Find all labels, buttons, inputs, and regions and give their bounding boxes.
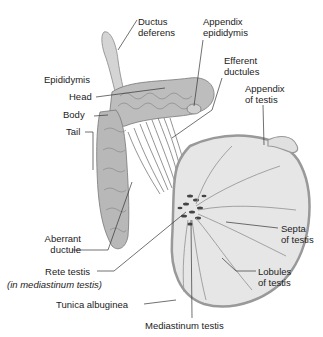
leader-ductus-deferens bbox=[118, 20, 137, 50]
epididymis-tail-shape bbox=[97, 110, 129, 249]
label-appendix-epididymis: Appendix epididymis bbox=[203, 16, 248, 38]
ductus-deferens-shape bbox=[102, 32, 124, 95]
label-epididymis: Epididymis bbox=[44, 74, 90, 85]
label-efferent-ductules: Efferent ductules bbox=[224, 55, 259, 77]
epididymis-head-shape bbox=[110, 78, 214, 127]
label-rete-testis: Rete testis bbox=[30, 266, 90, 277]
label-appendix-of-testis: Appendix of testis bbox=[245, 83, 285, 105]
label-lobules-of-testis: Lobules of testis bbox=[258, 266, 291, 288]
label-aberrant-ductule: Aberrant ductule bbox=[19, 233, 81, 255]
leader-tunica-albuginea bbox=[144, 300, 176, 304]
label-body: Body bbox=[63, 109, 85, 120]
leader-tail bbox=[85, 132, 93, 170]
label-tunica-albuginea: Tunica albuginea bbox=[56, 299, 128, 310]
label-mediastinum-testis: Mediastinum testis bbox=[145, 320, 224, 331]
label-tail: Tail bbox=[66, 126, 80, 137]
label-ductus-deferens: Ductus deferens bbox=[138, 16, 175, 38]
label-head: Head bbox=[69, 91, 92, 102]
testis-anatomy-diagram: Ductus deferens Appendix epididymis Effe… bbox=[0, 0, 323, 337]
label-rete-testis-note: (in mediastinum testis) bbox=[7, 279, 102, 290]
label-septa-of-testis: Septa of testis bbox=[281, 223, 314, 245]
